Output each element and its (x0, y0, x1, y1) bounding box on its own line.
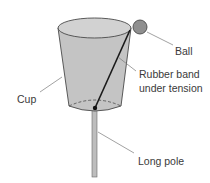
band-anchor-dot (93, 106, 97, 110)
cup-label: Cup (17, 93, 36, 105)
ball-leader-line (147, 32, 173, 45)
long-pole-label: Long pole (138, 155, 184, 167)
rubber-band-label-line1: Rubber band (139, 68, 200, 80)
cup-leader-line (40, 77, 62, 92)
long-pole (92, 110, 97, 177)
cup-rim (58, 18, 131, 38)
catapult-cup-diagram: Ball Rubber band under tension Cup Long … (0, 0, 210, 183)
rubber-band-label-line2: under tension (139, 82, 203, 94)
ball (133, 20, 147, 34)
pole-leader-line (98, 132, 134, 153)
ball-label: Ball (175, 45, 193, 57)
cup-body (58, 28, 131, 111)
